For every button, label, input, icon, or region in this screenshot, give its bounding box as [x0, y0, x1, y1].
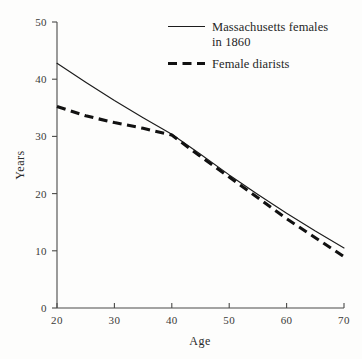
y-tick-label-10: 10 [35, 245, 47, 257]
x-axis-title: Age [189, 334, 211, 348]
x-tick-label-40: 40 [166, 314, 178, 326]
x-tick-label-20: 20 [51, 314, 63, 326]
chart-legend: Massachusetts females in 1860 Female dia… [168, 20, 328, 71]
y-tick-label-30: 30 [35, 130, 47, 142]
x-tick-label-30: 30 [108, 314, 120, 326]
x-tick-label-60: 60 [281, 314, 293, 326]
y-tick-label-50: 50 [35, 16, 47, 28]
legend-label-massachusetts-line2: in 1860 [212, 35, 251, 49]
y-tick-label-0: 0 [41, 302, 47, 314]
legend-label-female-diarists: Female diarists [212, 57, 290, 71]
chart-figure: 50 40 30 20 10 0 20 30 40 50 60 70 Age Y… [0, 0, 362, 359]
y-tick-label-20: 20 [35, 188, 47, 200]
line-chart: 50 40 30 20 10 0 20 30 40 50 60 70 Age Y… [0, 0, 362, 359]
legend-label-massachusetts-line1: Massachusetts females [212, 20, 328, 34]
series-line-female-diarists [57, 107, 344, 257]
x-tick-label-70: 70 [338, 314, 350, 326]
x-tick-label-50: 50 [223, 314, 235, 326]
y-axis-title: Years [13, 150, 27, 179]
y-tick-label-40: 40 [35, 73, 47, 85]
